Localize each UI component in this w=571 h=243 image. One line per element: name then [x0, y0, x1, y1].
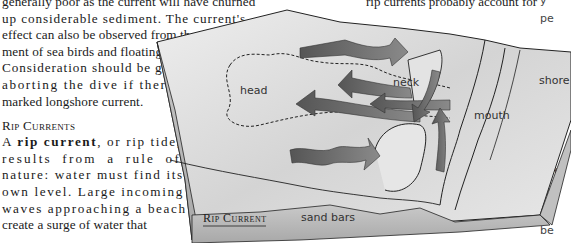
label-mouth: mouth	[474, 109, 510, 122]
rip-current-diagram: head neck mouth shore sand bars Rip Curr…	[0, 0, 571, 243]
diagram-title: Rip Current	[203, 211, 267, 225]
label-sand-bars: sand bars	[301, 211, 355, 224]
label-head: head	[240, 84, 267, 97]
water-surface	[157, 10, 571, 240]
label-neck: neck	[393, 76, 420, 89]
label-shore: shore	[539, 74, 570, 87]
